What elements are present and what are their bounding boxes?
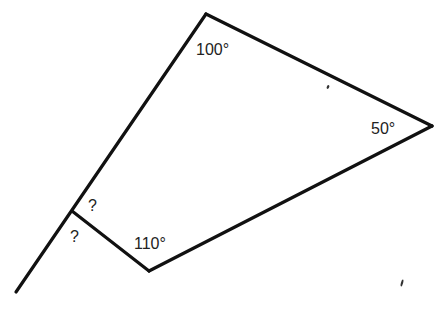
side-top-right — [206, 14, 432, 126]
extended-side-line — [16, 14, 206, 292]
scan-speck — [400, 279, 404, 286]
side-right-bottom — [149, 126, 432, 271]
exterior-unknown-angle-label: ? — [70, 229, 79, 245]
right-angle-label: 50° — [371, 121, 395, 137]
bottom-angle-label: 110° — [134, 236, 166, 252]
interior-unknown-angle-label: ? — [88, 198, 97, 214]
top-angle-label: 100° — [196, 42, 229, 58]
scan-speck — [326, 85, 330, 90]
